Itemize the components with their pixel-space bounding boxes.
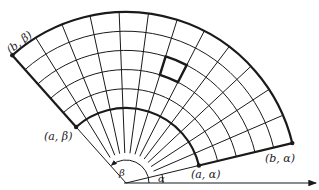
grid-spoke [36,38,87,120]
grid-spoke [171,47,229,124]
polar-grid-diagram: (b, β) (a, β) (a, α) (b, α) β α [0,0,319,190]
arc-r-a [76,108,199,165]
grid-spoke [62,24,98,113]
label-a-alpha: (a, α) [191,168,221,181]
point-a-beta [74,125,78,129]
grid-spoke [136,13,149,108]
grid-spoke [181,66,251,132]
point-b-alpha [290,141,294,145]
grid-arc [51,70,237,157]
inner-spoke [123,108,125,153]
beta-angle-arc [112,160,149,183]
label-b-alpha: (b, α) [265,152,295,165]
label-beta-angle: β [118,167,125,178]
inner-spoke [135,111,148,154]
highlighted-cell-outline [160,56,187,82]
grid-spoke [90,16,110,110]
inner-spoke [140,116,161,156]
arc-r-b [12,12,292,143]
label-alpha-angle: α [158,173,165,184]
highlighted-cell [160,56,187,82]
grid-spoke [119,12,123,108]
inner-spokes [76,108,199,183]
label-a-beta: (a, β) [44,130,73,143]
inner-spoke [130,109,136,154]
corner-points [10,53,294,168]
ray-beta-outer [12,55,76,127]
